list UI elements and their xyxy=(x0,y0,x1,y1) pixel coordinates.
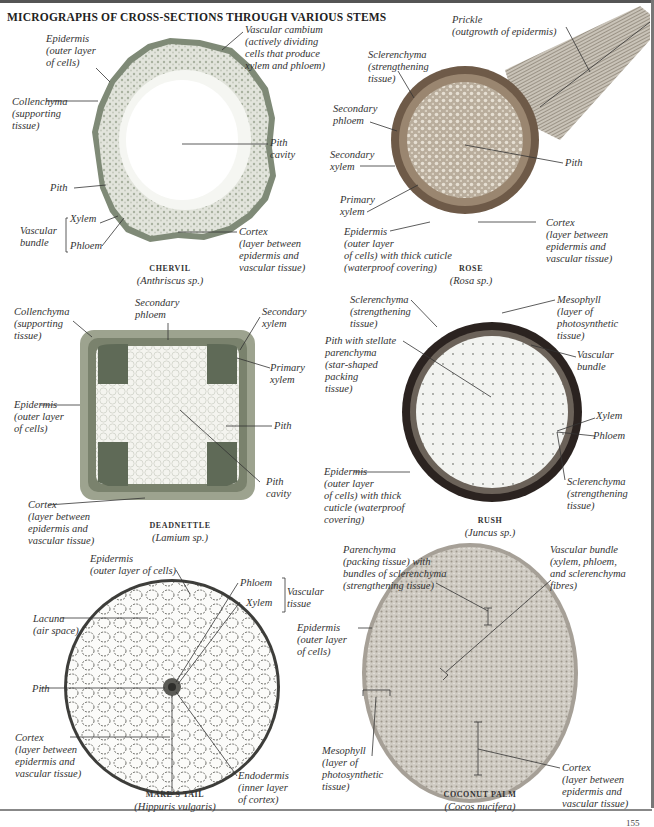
chervil-label-epidermis: Epidermis (outer layer of cells) xyxy=(46,33,96,69)
coconut-scientific-name: (Cocos nucifera) xyxy=(430,801,530,813)
coconut-label-mesophyll: Mesophyll (layer of photosynthetic tissu… xyxy=(322,745,383,793)
mares-tail-caption: MARE'S TAIL (Hippuris vulgaris) xyxy=(120,789,230,813)
rush-label-pith: Pith with stellate parenchyma (star-shap… xyxy=(325,335,396,395)
chervil-label-vascular-bundle: Vascular bundle xyxy=(20,225,57,249)
rush-section xyxy=(402,322,582,502)
chervil-label-pith: Pith xyxy=(50,182,68,194)
deadnettle-label-collenchyma: Collenchyma (supporting tissue) xyxy=(14,306,69,342)
deadnettle-label-pith-cavity: Pith cavity xyxy=(266,476,291,500)
deadnettle-scientific-name: (Lamium sp.) xyxy=(130,532,230,544)
rose-label-primary-xylem: Primary xylem xyxy=(340,194,375,218)
rush-label-sclerenchyma-bottom: Sclerenchyma (strengthening tissue) xyxy=(567,476,628,512)
coconut-caption: COCONUT PALM (Cocos nucifera) xyxy=(430,789,530,813)
rush-label-xylem: Xylem xyxy=(596,410,622,422)
mares-tail-label-xylem: Xylem xyxy=(246,597,272,609)
mares-tail-label-cortex: Cortex (layer between epidermis and vasc… xyxy=(15,732,81,780)
chervil-label-vascular-cambium: Vascular cambium (actively dividing cell… xyxy=(245,24,325,72)
mares-tail-label-endodermis: Endodermis (inner layer of cortex) xyxy=(238,770,289,806)
mares-tail-scientific-name: (Hippuris vulgaris) xyxy=(120,801,230,813)
chervil-scientific-name: (Anthriscus sp.) xyxy=(110,275,230,287)
rush-label-sclerenchyma-top: Sclerenchyma (strengthening tissue) xyxy=(350,294,411,330)
rush-scientific-name: (Juncus sp.) xyxy=(450,527,530,539)
deadnettle-caption: DEADNETTLE (Lamium sp.) xyxy=(130,520,230,544)
deadnettle-label-cortex: Cortex (layer between epidermis and vasc… xyxy=(28,499,94,547)
deadnettle-label-secondary-xylem: Secondary xylem xyxy=(262,306,306,330)
rose-scientific-name: (Rosa sp.) xyxy=(436,275,506,287)
chervil-label-phloem: Phloem xyxy=(70,240,102,252)
deadnettle-name: DEADNETTLE xyxy=(149,521,210,530)
rush-label-phloem: Phloem xyxy=(593,430,625,442)
deadnettle-label-pith: Pith xyxy=(274,420,292,432)
rush-caption: RUSH (Juncus sp.) xyxy=(450,515,530,539)
chervil-label-cortex: Cortex (layer between epidermis and vasc… xyxy=(239,226,305,274)
page-number: 155 xyxy=(626,818,640,827)
deadnettle-label-primary-xylem: Primary xylem xyxy=(270,362,305,386)
rush-label-mesophyll: Mesophyll (layer of photosynthetic tissu… xyxy=(557,294,618,342)
mares-tail-label-phloem: Phloem xyxy=(240,577,272,589)
rush-label-vascular-bundle: Vascular bundle xyxy=(577,349,614,373)
chervil-name: CHERVIL xyxy=(149,264,190,273)
rose-label-pith: Pith xyxy=(565,157,583,169)
mares-tail-label-epidermis: Epidermis (outer layer of cells) xyxy=(90,553,176,577)
chervil-label-collenchyma: Collenchyma (supporting tissue) xyxy=(12,96,67,132)
coconut-name: COCONUT PALM xyxy=(444,790,517,799)
rose-label-secondary-phloem: Secondary phloem xyxy=(333,103,377,127)
rose-name: ROSE xyxy=(459,264,483,273)
rose-label-sclerenchyma: Sclerenchyma (strengthening tissue) xyxy=(368,49,429,85)
coconut-label-vascular-bundle: Vascular bundle (xylem, phloem, and scle… xyxy=(550,544,626,592)
chervil-label-pith-cavity: Pith cavity xyxy=(270,137,295,161)
mares-tail-label-lacuna: Lacuna (air space) xyxy=(33,613,79,637)
rush-name: RUSH xyxy=(478,516,503,525)
coconut-label-cortex: Cortex (layer between epidermis and vasc… xyxy=(562,762,628,810)
rush-label-epidermis: Epidermis (outer layer of cells) with th… xyxy=(324,466,404,526)
deadnettle-label-secondary-phloem: Secondary phloem xyxy=(135,297,179,321)
deadnettle-label-epidermis: Epidermis (outer layer of cells) xyxy=(14,399,64,435)
mares-tail-label-pith: Pith xyxy=(32,683,50,695)
deadnettle-section xyxy=(80,330,255,500)
mares-tail-label-vascular-tissue: Vascular tissue xyxy=(287,586,324,610)
mares-tail-name: MARE'S TAIL xyxy=(146,790,205,799)
rose-label-prickle: Prickle (outgrowth of epidermis) xyxy=(452,14,557,38)
rose-caption: ROSE (Rosa sp.) xyxy=(436,263,506,287)
rose-label-cortex: Cortex (layer between epidermis and vasc… xyxy=(546,217,612,265)
chervil-caption: CHERVIL (Anthriscus sp.) xyxy=(110,263,230,287)
coconut-label-parenchyma: Parenchyma (packing tissue) with bundles… xyxy=(343,544,446,592)
chervil-label-xylem: Xylem xyxy=(70,213,96,225)
rose-label-secondary-xylem: Secondary xylem xyxy=(330,149,374,173)
coconut-label-epidermis: Epidermis (outer layer of cells) xyxy=(297,622,347,658)
micrograph-illustrations xyxy=(0,0,654,827)
